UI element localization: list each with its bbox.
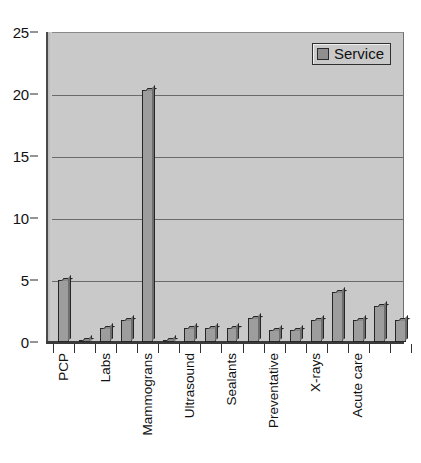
bar[interactable] bbox=[142, 90, 153, 342]
y-axis-tick-label: 15 bbox=[13, 149, 29, 164]
x-axis-tick-mark bbox=[306, 344, 307, 353]
bar-slot bbox=[142, 32, 153, 342]
bar-top-face bbox=[398, 318, 410, 321]
bar-slot bbox=[248, 32, 259, 342]
bar-side-face bbox=[363, 315, 366, 341]
y-axis-tick-label: 25 bbox=[13, 25, 29, 40]
bar[interactable] bbox=[58, 280, 69, 342]
bar[interactable] bbox=[332, 292, 343, 342]
bar-side-face bbox=[405, 315, 408, 341]
x-axis-tick-mark bbox=[411, 344, 412, 353]
y-axis-tick-mark bbox=[30, 156, 38, 157]
bar-slot bbox=[79, 32, 90, 342]
y-axis-tick-label: 0 bbox=[21, 335, 29, 350]
bar-side-face bbox=[152, 85, 155, 341]
bar[interactable] bbox=[227, 328, 238, 342]
bar[interactable] bbox=[163, 340, 174, 342]
x-axis-tick-mark bbox=[158, 344, 159, 353]
bar[interactable] bbox=[395, 320, 406, 342]
bar[interactable] bbox=[100, 328, 111, 342]
x-axis-labels: PCPLabsMammogransUltrasoundSealantsPreve… bbox=[46, 353, 404, 463]
x-axis-tick-label: Labs bbox=[99, 353, 113, 382]
bar-side-face bbox=[68, 275, 71, 341]
bar-slot bbox=[58, 32, 69, 342]
x-axis-tick-label: Sealants bbox=[225, 353, 239, 406]
x-axis-tick-label: Mammograns bbox=[141, 353, 155, 436]
bar[interactable] bbox=[374, 306, 385, 342]
y-axis-tick-mark bbox=[30, 342, 38, 343]
bar-slot bbox=[121, 32, 132, 342]
bar-side-face bbox=[321, 315, 324, 341]
y-axis-tick-mark bbox=[30, 218, 38, 219]
bar-side-face bbox=[384, 301, 387, 341]
y-axis-tick-mark bbox=[30, 280, 38, 281]
x-axis-tick-mark bbox=[95, 344, 96, 353]
x-axis-tick-mark bbox=[264, 344, 265, 353]
x-axis-tick-mark bbox=[179, 344, 180, 353]
bar-slot bbox=[374, 32, 385, 342]
x-axis-tick-mark bbox=[327, 344, 328, 353]
bar[interactable] bbox=[248, 318, 259, 342]
bar[interactable] bbox=[290, 330, 301, 342]
bar-slot bbox=[395, 32, 406, 342]
x-axis-tick-label: PCP bbox=[57, 353, 71, 381]
y-axis-tick-label: 10 bbox=[13, 211, 29, 226]
bar-side-face bbox=[131, 315, 134, 341]
bar-top-face bbox=[356, 318, 368, 321]
x-axis-tick-label: Acute care bbox=[351, 353, 365, 418]
bar-slot bbox=[311, 32, 322, 342]
x-axis-tick-mark bbox=[116, 344, 117, 353]
y-axis-tick-label: 20 bbox=[13, 87, 29, 102]
bar-side-face bbox=[110, 323, 113, 341]
x-axis-tick-mark bbox=[137, 344, 138, 353]
bar-slot bbox=[332, 32, 343, 342]
chart-legend: Service bbox=[312, 43, 391, 65]
x-axis-tick-mark bbox=[221, 344, 222, 353]
x-axis-tick-mark bbox=[243, 344, 244, 353]
bar[interactable] bbox=[205, 328, 216, 342]
y-axis: 0510152025 bbox=[0, 0, 42, 463]
bar-slot bbox=[163, 32, 174, 342]
bar-slot bbox=[205, 32, 216, 342]
bar-chart: 0510152025 PCPLabsMammogransUltrasoundSe… bbox=[0, 0, 421, 463]
bar-top-face bbox=[377, 304, 389, 307]
legend-label-service: Service bbox=[334, 46, 384, 61]
bar[interactable] bbox=[311, 320, 322, 342]
legend-swatch-service bbox=[317, 48, 329, 60]
y-axis-tick-mark bbox=[30, 32, 38, 33]
bar-side-face bbox=[194, 323, 197, 341]
bar[interactable] bbox=[79, 340, 90, 342]
x-axis-tick-label: Preventative bbox=[267, 353, 281, 428]
bar-slot bbox=[269, 32, 280, 342]
x-axis-tick-mark bbox=[285, 344, 286, 353]
x-axis-tick-mark bbox=[53, 344, 54, 353]
x-axis-tick-mark bbox=[348, 344, 349, 353]
bar-side-face bbox=[258, 313, 261, 341]
bar[interactable] bbox=[184, 328, 195, 342]
x-axis-tick-label: Ultrasound bbox=[183, 353, 197, 418]
bar-slot bbox=[227, 32, 238, 342]
x-axis-tick-mark bbox=[200, 344, 201, 353]
bar[interactable] bbox=[269, 330, 280, 342]
bar-slot bbox=[353, 32, 364, 342]
bar-side-face bbox=[215, 323, 218, 341]
bar-slot bbox=[290, 32, 301, 342]
bar-slot bbox=[100, 32, 111, 342]
bar-slot bbox=[184, 32, 195, 342]
bar[interactable] bbox=[121, 320, 132, 342]
y-axis-tick-label: 5 bbox=[21, 273, 29, 288]
x-axis-tick-mark bbox=[369, 344, 370, 353]
bars-layer bbox=[46, 32, 404, 342]
bar[interactable] bbox=[353, 320, 364, 342]
x-axis-tick-label: X-rays bbox=[309, 353, 323, 392]
x-axis-tick-mark bbox=[74, 344, 75, 353]
x-axis-tick-mark bbox=[390, 344, 391, 353]
bar-side-face bbox=[342, 287, 345, 341]
bar-side-face bbox=[279, 325, 282, 341]
bar-side-face bbox=[300, 325, 303, 341]
y-axis-tick-mark bbox=[30, 94, 38, 95]
